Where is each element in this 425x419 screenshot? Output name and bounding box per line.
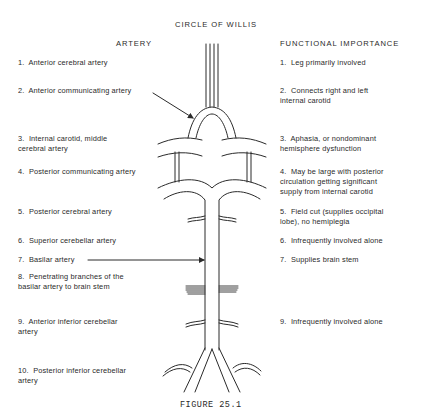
circle-of-willis-drawing (0, 0, 425, 419)
penetrating-branches (186, 286, 238, 294)
figure-caption: FIGURE 25.1 (180, 400, 242, 410)
posterior-cerebral-arcs (158, 180, 266, 350)
vertebral-arteries (184, 348, 240, 392)
pointer-arrow-2 (153, 93, 193, 118)
anterior-cerebral-vessels (206, 44, 218, 107)
posterior-communicating-vessels (175, 152, 251, 182)
superior-cerebellar-branches (188, 216, 236, 222)
anterior-inferior-cerebellar-branches (186, 320, 238, 327)
middle-cerebral-arcs (158, 138, 266, 157)
posterior-inferior-cerebellar-branches (163, 363, 261, 376)
anterior-communicating-arch (188, 107, 236, 138)
